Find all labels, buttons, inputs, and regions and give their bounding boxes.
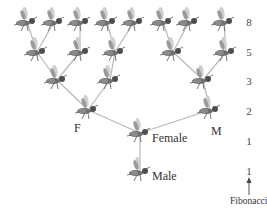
label-m: M xyxy=(211,125,222,137)
label-fibonacci: Fibonacci xyxy=(230,197,267,207)
bee-family-tree xyxy=(0,0,267,209)
ancestry-line xyxy=(173,22,189,52)
ancestry-line xyxy=(110,52,115,80)
ancestry-line xyxy=(88,110,140,133)
ancestry-line xyxy=(140,110,210,133)
bee-icon xyxy=(211,7,234,31)
bee-icon xyxy=(121,7,144,31)
up-arrow-icon xyxy=(247,177,252,195)
label-f: F xyxy=(74,122,81,134)
bee-icon xyxy=(150,7,173,31)
bee-icon xyxy=(213,37,236,61)
bee-icon xyxy=(197,95,220,119)
fib-1b: 1 xyxy=(242,166,256,177)
fib-8: 8 xyxy=(242,17,256,28)
fib-2: 2 xyxy=(242,106,256,117)
bee-icon xyxy=(75,95,98,119)
bee-icon xyxy=(176,7,199,31)
bee-icon xyxy=(67,37,90,61)
bee-icon xyxy=(41,7,64,31)
fib-5: 5 xyxy=(242,47,256,58)
label-male: Male xyxy=(152,170,177,182)
fib-1a: 1 xyxy=(242,136,256,147)
bee-icon xyxy=(97,65,120,89)
bee-icon xyxy=(94,7,117,31)
bee-icon xyxy=(14,7,37,31)
bee-icon xyxy=(127,118,150,142)
label-female: Female xyxy=(152,132,187,144)
fib-3: 3 xyxy=(242,76,256,87)
bee-icon xyxy=(67,7,90,31)
ancestry-lines xyxy=(27,22,226,172)
bee-icon xyxy=(127,157,150,181)
bee-icon xyxy=(190,65,213,89)
bee-icon xyxy=(44,65,67,89)
